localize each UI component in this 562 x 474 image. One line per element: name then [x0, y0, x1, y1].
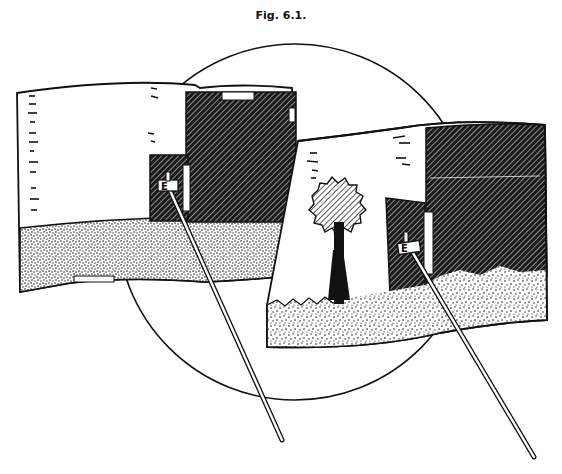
right-dark-screen	[426, 124, 547, 290]
left-dark-screen	[186, 92, 296, 222]
left-clip-label: E	[161, 181, 168, 192]
left-backdrop-panel: E	[17, 83, 300, 440]
right-backdrop-panel: E	[267, 122, 547, 457]
figure-illustration: E E	[0, 0, 562, 474]
right-clip-label: E	[401, 243, 408, 254]
